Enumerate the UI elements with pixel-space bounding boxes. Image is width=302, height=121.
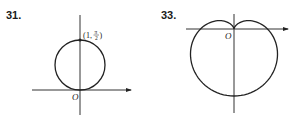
figure-33: 33. O — [161, 9, 288, 113]
point-marker — [79, 39, 82, 42]
svg-text:): ) — [100, 31, 103, 40]
origin-label: O — [225, 31, 232, 41]
origin-label: O — [72, 92, 79, 102]
svg-text:π: π — [95, 29, 98, 35]
polar-graphs-figure: 31. ( 1 , π 2 ) O 33. O — [0, 0, 302, 121]
figure-number: 33. — [161, 9, 176, 21]
point-label: ( 1 , π 2 ) — [83, 29, 103, 42]
figure-31: 31. ( 1 , π 2 ) O — [6, 9, 131, 115]
svg-text:2: 2 — [95, 35, 98, 41]
figure-number: 31. — [6, 9, 21, 21]
svg-text:,: , — [90, 31, 92, 40]
